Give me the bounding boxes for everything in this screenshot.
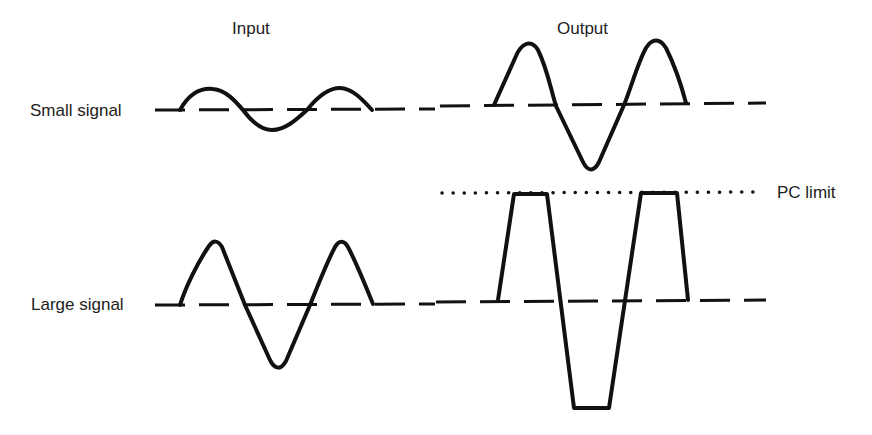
amplifier-clipping-diagram: Input Output Small signal Large signal P… — [0, 0, 872, 435]
large-signal-output-baseline — [436, 300, 766, 302]
waveforms-svg — [0, 0, 872, 435]
small-signal-output-baseline — [440, 103, 766, 106]
pc-limit-line — [442, 192, 760, 193]
large-signal-input-baseline — [155, 304, 435, 305]
small-signal-input-baseline — [155, 109, 435, 110]
